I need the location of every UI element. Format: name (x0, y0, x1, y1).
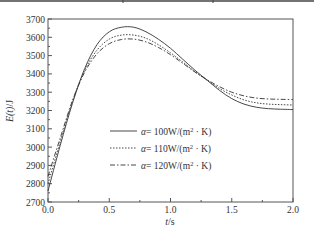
y-tick-label: 3300 (26, 88, 45, 98)
legend: α= 100W/(m2 · K)α= 110W/(m2 · K)α= 120W/… (110, 126, 211, 172)
legend-label-1: α= 100W/(m2 · K) (141, 126, 211, 138)
plot-border (48, 19, 293, 202)
y-tick-label: 2800 (26, 179, 45, 189)
y-axis-label: E(t)/J (4, 100, 16, 123)
line-chart: 0.00.51.01.52.02700280029003000310032003… (0, 0, 314, 236)
y-tick-label: 3400 (26, 69, 45, 79)
x-tick-label: 1.0 (165, 205, 177, 215)
x-tick-label: 0.5 (103, 205, 115, 215)
y-tick-label: 3500 (26, 51, 45, 61)
x-tick-label: 2.0 (287, 205, 299, 215)
y-tick-label: 2700 (26, 198, 45, 208)
plot-area (48, 19, 293, 202)
axis-ticks: 0.00.51.01.52.02700280029003000310032003… (26, 15, 299, 216)
y-tick-label: 3000 (26, 143, 45, 153)
legend-label-3: α= 120W/(m2 · K) (141, 160, 211, 172)
x-tick-label: 1.5 (226, 205, 238, 215)
x-axis-label: t/s (165, 216, 175, 227)
y-tick-label: 3200 (26, 106, 45, 116)
y-tick-label: 2900 (26, 161, 45, 171)
legend-label-2: α= 110W/(m2 · K) (141, 143, 211, 155)
y-tick-label: 3100 (26, 124, 45, 134)
y-tick-label: 3700 (26, 15, 45, 25)
y-tick-label: 3600 (26, 33, 45, 43)
